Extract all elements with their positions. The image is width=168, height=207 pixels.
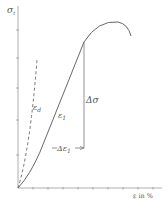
y-axis-ticks — [16, 30, 19, 155]
epsilon-d-dashed-line — [18, 60, 37, 188]
y-axis-label: σt — [7, 5, 16, 16]
delta-sigma-label: Δσ — [85, 95, 99, 105]
stress-strain-diagram: σt εd ε1 Δσ Δε1 ε in % — [0, 0, 168, 207]
x-axis-label: ε in % — [133, 192, 153, 200]
delta-epsilon-label: Δε1 — [56, 144, 71, 154]
epsilon-d-label: εd — [33, 103, 41, 113]
epsilon-1-label: ε1 — [58, 111, 66, 121]
